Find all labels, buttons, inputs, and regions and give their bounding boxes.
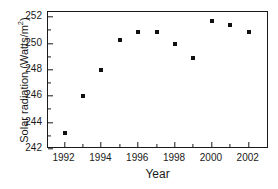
y-axis-tick-minor <box>48 30 51 31</box>
y-axis-label-text: Solar radiation (Watts/m <box>18 25 30 143</box>
x-axis-tick-major <box>138 142 139 147</box>
data-point <box>191 56 195 60</box>
y-axis-tick-minor <box>48 83 51 84</box>
plot-frame <box>47 11 268 148</box>
y-axis-tick-major <box>48 17 53 18</box>
y-axis-tick-minor <box>48 135 51 136</box>
data-point <box>210 19 214 23</box>
data-point <box>228 23 232 27</box>
x-axis-tick-label: 2000 <box>200 152 222 163</box>
x-axis-label: Year <box>47 167 268 181</box>
data-point <box>136 30 140 34</box>
x-axis-tick-label: 1996 <box>126 152 148 163</box>
x-axis-tick-minor <box>156 144 157 147</box>
x-axis-tick-minor <box>82 144 83 147</box>
y-axis-label-tail: ) <box>18 17 30 21</box>
x-axis-tick-major <box>101 142 102 147</box>
data-point <box>63 131 67 135</box>
x-axis-tick-minor <box>193 144 194 147</box>
x-axis-tick-label: 1994 <box>89 152 111 163</box>
data-point <box>247 30 251 34</box>
x-axis-tick-label: 1992 <box>52 152 74 163</box>
data-point <box>155 30 159 34</box>
solar-radiation-chart: 242244246248250252 Solar radiation (Watt… <box>0 0 278 189</box>
y-axis-tick-major <box>48 148 53 149</box>
y-axis-tick-major <box>48 122 53 123</box>
data-point <box>99 68 103 72</box>
y-axis-tick-minor <box>48 109 51 110</box>
y-axis-tick-major <box>48 43 53 44</box>
x-axis-tick-minor <box>119 144 120 147</box>
x-axis-tick-major <box>248 142 249 147</box>
x-axis-tick-minor <box>230 144 231 147</box>
y-axis-tick-minor <box>48 56 51 57</box>
y-axis-label-exponent: 2 <box>16 21 25 25</box>
x-axis-tick-major <box>64 142 65 147</box>
data-point <box>118 38 122 42</box>
y-axis-label: Solar radiation (Watts/m2) <box>18 0 30 160</box>
y-axis-tick-major <box>48 96 53 97</box>
x-axis-tick-major <box>211 142 212 147</box>
plot-area <box>48 12 267 147</box>
y-axis-tick-major <box>48 69 53 70</box>
x-axis-tick-labels: 199219941996199820002002 <box>47 152 268 166</box>
data-point <box>173 42 177 46</box>
x-axis-tick-label: 1998 <box>163 152 185 163</box>
data-point <box>81 94 85 98</box>
x-axis-tick-label: 2002 <box>237 152 259 163</box>
x-axis-tick-major <box>174 142 175 147</box>
